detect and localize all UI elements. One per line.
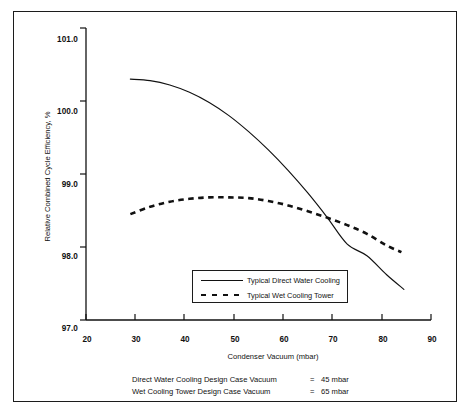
footnote-row-direct-water-cooling: Direct Water Cooling Design Case Vacuum … xyxy=(132,374,349,386)
y-tick-label-100: 100.0 xyxy=(44,107,78,116)
footnote-equals-wet: = xyxy=(310,386,321,398)
chart-footnote: Direct Water Cooling Design Case Vacuum … xyxy=(132,374,349,397)
y-tick-label-101: 101.0 xyxy=(44,35,78,44)
x-tick-label-40: 40 xyxy=(170,335,200,344)
legend-label-direct-water-cooling: Typical Direct Water Cooling xyxy=(247,276,340,285)
x-tick-label-60: 60 xyxy=(269,335,299,344)
legend-entry-direct-water-cooling: Typical Direct Water Cooling xyxy=(193,272,347,288)
footnote-value-direct: 45 mbar xyxy=(321,374,349,386)
x-tick-label-50: 50 xyxy=(220,335,250,344)
chart-legend: Typical Direct Water Cooling Typical Wet… xyxy=(192,270,348,303)
legend-swatch-dashed-line xyxy=(199,290,245,300)
footnote-row-wet-cooling-tower: Wet Cooling Tower Design Case Vacuum = 6… xyxy=(132,386,349,398)
footnote-value-wet: 65 mbar xyxy=(321,386,349,398)
legend-label-wet-cooling-tower: Typical Wet Cooling Tower xyxy=(247,291,334,300)
x-tick-label-70: 70 xyxy=(318,335,348,344)
y-tick-label-98: 98.0 xyxy=(44,252,78,261)
footnote-equals-direct: = xyxy=(310,374,321,386)
y-tick-label-97: 97.0 xyxy=(44,324,78,333)
x-tick-label-30: 30 xyxy=(121,335,151,344)
chart-figure-frame: Relative Combined Cycle Efficiency, % 10… xyxy=(13,11,457,402)
x-tick-label-90: 90 xyxy=(417,335,447,344)
legend-swatch-solid-line xyxy=(199,275,245,285)
y-tick-label-99: 99.0 xyxy=(44,180,78,189)
y-axis-title: Relative Combined Cycle Efficiency, % xyxy=(43,92,52,262)
x-axis-title: Condenser Vacuum (mbar) xyxy=(100,352,446,361)
legend-entry-wet-cooling-tower: Typical Wet Cooling Tower xyxy=(193,287,347,303)
footnote-desc-wet-cooling-tower: Wet Cooling Tower Design Case Vacuum xyxy=(132,386,310,398)
x-tick-label-20: 20 xyxy=(72,335,102,344)
x-tick-label-80: 80 xyxy=(368,335,398,344)
footnote-desc-direct-water-cooling: Direct Water Cooling Design Case Vacuum xyxy=(132,374,310,386)
